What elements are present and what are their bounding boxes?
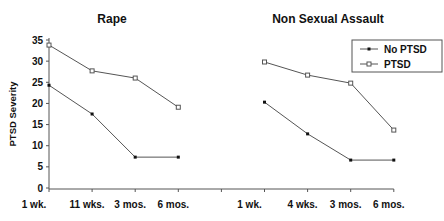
y-tick-label: 15 <box>32 119 44 130</box>
data-point <box>91 113 94 116</box>
y-tick-label: 20 <box>32 98 44 109</box>
x-tick-label: 1 wk. <box>22 199 47 210</box>
data-point <box>90 69 94 73</box>
data-point <box>47 43 51 47</box>
x-tick-label: 11 wks. <box>70 199 105 210</box>
data-point <box>176 105 180 109</box>
data-point <box>392 128 396 132</box>
y-tick-label: 30 <box>32 56 44 67</box>
filled-diamond-marker-icon <box>368 48 371 51</box>
data-point <box>263 60 267 64</box>
x-tick-label: 6 mos. <box>157 199 189 210</box>
y-tick-label: 10 <box>32 140 44 151</box>
y-axis: 05101520253035 <box>32 35 49 194</box>
y-tick-label: 5 <box>37 161 43 172</box>
x-tick-label: 4 wks. <box>288 199 318 210</box>
data-point <box>306 73 310 77</box>
chart-title-non-sexual-assault: Non Sexual Assault <box>272 12 384 26</box>
data-point <box>349 81 353 85</box>
y-tick-label: 25 <box>32 77 44 88</box>
data-point <box>349 159 352 162</box>
legend-label-no-ptsd: No PTSD <box>384 44 427 55</box>
data-point <box>133 76 137 80</box>
legend-label-ptsd: PTSD <box>384 59 411 70</box>
series-layer <box>47 43 396 162</box>
data-point <box>177 156 180 159</box>
series-line <box>49 85 178 157</box>
data-point <box>392 159 395 162</box>
x-tick-label: 3 mos. <box>114 199 146 210</box>
x-tick-label: 6 mos. <box>373 199 405 210</box>
open-square-marker-icon <box>367 62 371 66</box>
x-tick-label: 3 mos. <box>330 199 362 210</box>
chart-title-rape: Rape <box>97 12 127 26</box>
data-point <box>134 156 137 159</box>
y-tick-label: 0 <box>37 183 43 194</box>
data-point <box>306 132 309 135</box>
x-tick-label: 1 wk. <box>237 199 262 210</box>
series-line <box>265 102 394 160</box>
ptsd-severity-chart: Rape Non Sexual Assault PTSD Severity 05… <box>0 0 444 221</box>
y-tick-label: 35 <box>32 35 44 46</box>
y-axis-label: PTSD Severity <box>7 81 18 147</box>
legend: No PTSD PTSD <box>352 40 442 72</box>
data-point <box>48 84 51 87</box>
data-point <box>263 101 266 104</box>
x-axis: 1 wk.11 wks.3 mos.6 mos.1 wk.4 wks.3 mos… <box>22 189 405 210</box>
